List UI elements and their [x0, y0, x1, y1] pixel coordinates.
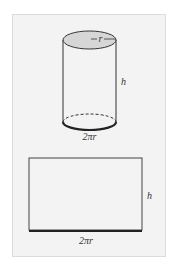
- cylinder-bottom-back-dashed: [63, 114, 116, 122]
- figure-canvas: r h 2πr h 2πr: [0, 0, 175, 270]
- radius-label: r: [99, 33, 103, 44]
- rectangle-outline: [29, 158, 142, 230]
- cylinder: r h 2πr: [63, 31, 126, 142]
- unrolled-rectangle: h 2πr: [29, 158, 152, 246]
- cylinder-top-ellipse: [63, 31, 116, 49]
- rectangle-width-label: 2πr: [79, 235, 93, 246]
- cylinder-circumference-label: 2πr: [83, 131, 97, 142]
- rectangle-height-label: h: [147, 190, 152, 201]
- cylinder-bottom-front-thick: [63, 122, 116, 130]
- cylinder-height-label: h: [121, 76, 126, 87]
